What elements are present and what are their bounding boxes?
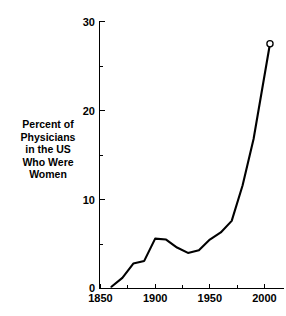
x-tick-label-1950: 1950 [198,292,222,304]
x-tick-label-2000: 2000 [252,292,276,304]
x-tick-label-1900: 1900 [143,292,167,304]
chart-figure: 0 10 20 30 1850 1900 1950 2000 Percent o… [0,0,286,316]
endpoint-marker [267,41,273,47]
y-tick-label-10: 10 [83,194,95,206]
x-tick-label-1850: 1850 [88,292,112,304]
y-tick-label-20: 20 [83,105,95,117]
y-tick-label-30: 30 [83,16,95,28]
y-axis-title: Percent of Physicians in the US Who Were… [4,118,92,181]
